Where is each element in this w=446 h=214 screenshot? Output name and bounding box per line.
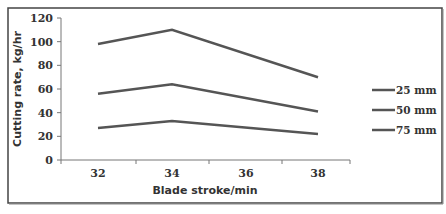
legend-label: 25 mm (396, 84, 437, 96)
x-axis-title: Blade stroke/min (152, 184, 257, 197)
y-tick-label: 80 (38, 59, 54, 72)
y-tick-label: 20 (38, 130, 54, 143)
y-tick-label: 60 (38, 83, 54, 96)
line-chart: 020406080100120 32343638 Blade stroke/mi… (0, 0, 446, 214)
x-tick-label: 38 (310, 167, 326, 180)
x-tick-label: 34 (164, 167, 180, 180)
y-axis-title: Cutting rate, kg/hr (11, 31, 24, 147)
x-tick-label: 36 (238, 167, 254, 180)
y-tick-label: 0 (45, 154, 53, 167)
y-tick-label: 40 (38, 107, 54, 120)
chart-frame (8, 8, 442, 203)
y-tick-label: 100 (30, 36, 53, 49)
legend-label: 75 mm (396, 124, 437, 136)
y-tick-label: 120 (30, 12, 53, 25)
legend-label: 50 mm (396, 104, 437, 116)
x-tick-label: 32 (90, 167, 105, 180)
